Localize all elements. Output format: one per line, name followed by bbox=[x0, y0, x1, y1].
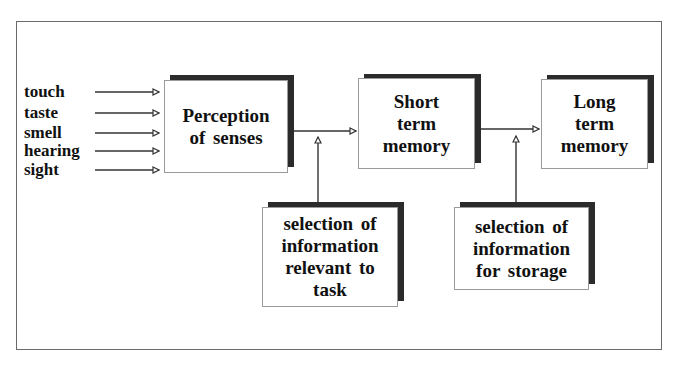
connector-arrows bbox=[0, 0, 687, 374]
